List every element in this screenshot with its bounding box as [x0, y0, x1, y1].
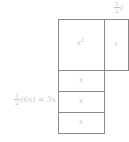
row-divider-1 — [58, 91, 105, 92]
row-3-label: x — [79, 119, 83, 126]
left-border — [58, 19, 59, 134]
top-right-expression-denominator: 2 — [114, 8, 120, 14]
top-right-expression-rest: ( — [120, 4, 123, 12]
row-2-label: x — [79, 98, 83, 105]
top-right-expression-fraction: 1 2 — [114, 1, 120, 15]
left-expression: 1 2 (6x) = 3x — [14, 93, 56, 107]
row-1-label: x — [79, 77, 83, 84]
big-square-bottom-border — [58, 70, 105, 71]
right-column-bottom-border — [105, 70, 129, 71]
left-expression-rest: (6x) = 3x — [20, 96, 56, 104]
left-expression-fraction: 1 2 — [14, 93, 20, 107]
top-right-expression: 1 2 ( — [114, 1, 123, 15]
left-expression-denominator: 2 — [14, 100, 20, 106]
row-divider-2 — [58, 112, 105, 113]
column-divider — [104, 19, 105, 134]
big-square-exponent: 2 — [81, 37, 84, 43]
bottom-border — [58, 133, 105, 134]
right-column-top-border — [105, 19, 129, 20]
big-square-label: x2 — [77, 40, 84, 47]
area-model-diagram: x2 x x x x 1 2 (6x) = 3x 1 2 ( — [0, 0, 129, 142]
big-square-top-border — [58, 19, 105, 20]
right-column-label: x — [114, 41, 118, 48]
right-column-right-border — [128, 19, 129, 71]
